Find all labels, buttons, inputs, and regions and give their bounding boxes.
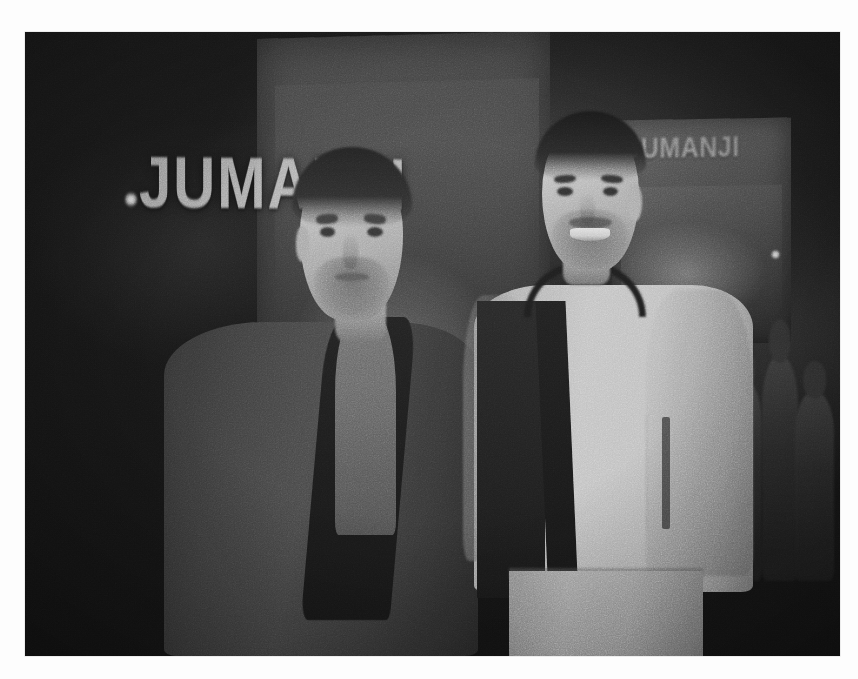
subject-left-eye — [367, 227, 383, 237]
subject-right-moustache — [569, 217, 612, 229]
subject-left-tshirt — [335, 312, 397, 534]
subject-left-ear — [296, 226, 310, 261]
subject-right-trousers — [509, 571, 703, 656]
subject-left-hair — [292, 147, 412, 228]
subject-right-zip-pocket — [662, 417, 670, 528]
subject-right-ear — [628, 184, 642, 221]
page-root: Jumanji JUMANJI JUMANJI — [0, 0, 858, 679]
subject-right-smile — [570, 228, 609, 241]
subject-left-eye — [320, 227, 336, 237]
subject-right-eye — [557, 187, 572, 195]
subject-right-pocket-seam — [646, 412, 697, 534]
subject-right-eye — [603, 187, 618, 195]
photograph: Jumanji JUMANJI JUMANJI — [25, 32, 840, 656]
crowd-figure — [795, 393, 833, 581]
subject-right — [416, 126, 775, 656]
subject-right-shirt — [477, 301, 545, 598]
